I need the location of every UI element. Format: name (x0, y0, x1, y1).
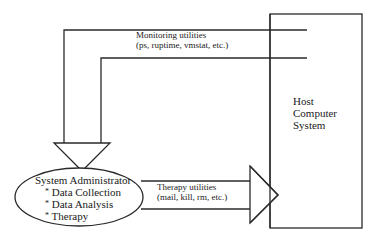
admin-title: System Administrator (35, 174, 131, 186)
monitoring-title: Monitoring utilities (136, 31, 228, 40)
bullet-icon: * (45, 199, 49, 208)
monitoring-arrowhead (54, 143, 110, 171)
admin-item-label: Data Analysis (52, 198, 113, 210)
host-line-1: Host (293, 95, 337, 107)
host-label: Host Computer System (293, 95, 337, 131)
therapy-arrowhead (250, 166, 278, 223)
therapy-label: Therapy utilities (mail, kill, rm, etc.) (157, 183, 227, 202)
admin-item-label: Data Collection (52, 186, 121, 198)
bullet-icon: * (45, 211, 49, 220)
admin-item: * Therapy (45, 210, 131, 222)
admin-item: * Data Analysis (45, 198, 131, 210)
therapy-detail: (mail, kill, rm, etc.) (157, 193, 227, 202)
monitoring-label: Monitoring utilities (ps, ruptime, vmsta… (136, 31, 228, 50)
admin-item-label: Therapy (52, 210, 89, 222)
monitoring-detail: (ps, ruptime, vmstat, etc.) (136, 41, 228, 50)
admin-item: * Data Collection (45, 186, 131, 198)
monitoring-arrow-inner-line (101, 58, 307, 143)
host-line-3: System (293, 119, 337, 131)
admin-label: System Administrator * Data Collection *… (35, 174, 131, 222)
therapy-title: Therapy utilities (157, 183, 227, 192)
bullet-icon: * (45, 187, 49, 196)
host-line-2: Computer (293, 107, 337, 119)
